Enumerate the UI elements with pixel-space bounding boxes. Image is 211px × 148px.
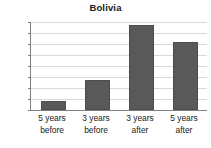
y-tick-55 — [28, 55, 32, 56]
y-tick-58 — [28, 22, 32, 23]
x-label-line: 3 years — [117, 113, 163, 125]
y-tick-56 — [28, 44, 32, 45]
y-tick-51 — [28, 99, 32, 100]
y-tick-53 — [28, 77, 32, 78]
x-label-line: before — [73, 125, 119, 137]
bar-3 — [129, 25, 154, 110]
x-label-line: after — [161, 125, 207, 137]
y-tick-52 — [28, 88, 32, 89]
chart-title: Bolivia — [0, 2, 211, 13]
plot-area — [30, 22, 207, 111]
gridline-58 — [31, 22, 207, 23]
x-label-line: 3 years — [73, 113, 119, 125]
y-tick-50 — [28, 110, 32, 111]
x-label-3: 3 yearsafter — [117, 113, 163, 136]
gridline-50 — [31, 110, 207, 111]
x-label-line: before — [29, 125, 75, 137]
x-label-1: 5 yearsbefore — [29, 113, 75, 136]
gridline-57 — [31, 33, 207, 34]
bar-4 — [173, 42, 198, 110]
y-tick-54 — [28, 66, 32, 67]
x-label-line: 5 years — [29, 113, 75, 125]
x-label-line: 5 years — [161, 113, 207, 125]
x-label-2: 3 yearsbefore — [73, 113, 119, 136]
x-label-4: 5 yearsafter — [161, 113, 207, 136]
x-label-line: after — [117, 125, 163, 137]
bar-2 — [85, 80, 110, 110]
bar-1 — [41, 101, 66, 110]
y-tick-57 — [28, 33, 32, 34]
bar-chart: Bolivia 505152535455565758 5 yearsbefore… — [0, 0, 211, 148]
